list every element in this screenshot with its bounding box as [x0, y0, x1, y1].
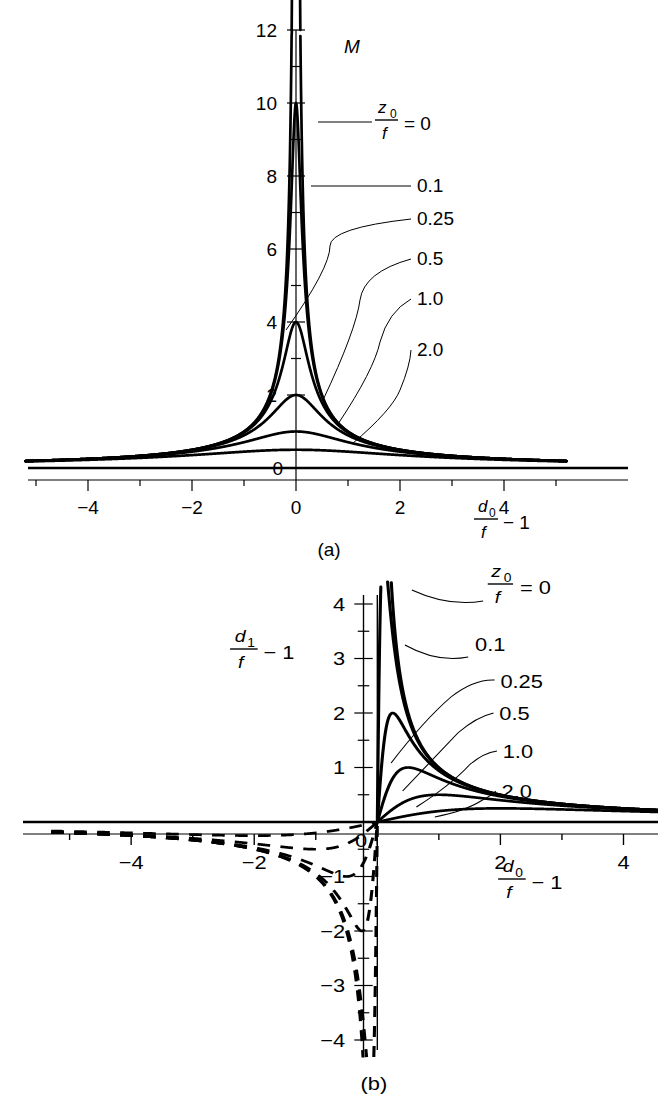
chart-a-svg: −4−2024024681012 M z 0 f = 0 0.1 0.25 0.…: [0, 0, 658, 560]
chart-a-series-label-0.5: 0.5: [417, 248, 443, 269]
chart-b-y-tick-label: 3: [333, 648, 345, 669]
chart-b-x-numerator: d: [503, 856, 515, 875]
chart-a-x-denominator: f: [481, 523, 488, 542]
chart-b-y-tick-label: 2: [333, 702, 345, 723]
chart-a-z0-denominator: f: [382, 124, 389, 143]
chart-b-y-tick-label: −1: [320, 866, 345, 887]
chart-b-leader-0: [412, 590, 483, 603]
chart-a-y-tick-label: 6: [266, 239, 277, 260]
chart-b-y-suffix: − 1: [263, 641, 294, 662]
chart-b-curve-0-negative: [51, 832, 363, 1057]
chart-b-curve-0-positive: [391, 583, 658, 812]
chart-a-x-tick-label: 0: [291, 497, 302, 518]
chart-b-z0-equals: = 0: [520, 576, 551, 597]
chart-a-y-tick-label: 8: [266, 166, 277, 187]
chart-a-leader-1.0: [338, 299, 411, 424]
chart-b-series-label-0.5: 0.5: [499, 702, 529, 723]
chart-b-z0-denominator: f: [495, 587, 502, 606]
chart-b-y-tick-label: 4: [333, 593, 345, 614]
chart-b-x-tick-label: −2: [242, 851, 267, 872]
chart-a-x-tick-label: −4: [77, 497, 99, 518]
chart-b-curve-2.0-positive: [377, 808, 658, 822]
chart-a-series-label-0: z 0 f = 0: [375, 98, 431, 143]
chart-panel-a: −4−2024024681012 M z 0 f = 0 0.1 0.25 0.…: [0, 0, 658, 560]
chart-b-y-tick-label: −4: [320, 1029, 345, 1050]
chart-a-z0-equals: = 0: [404, 113, 431, 134]
chart-a-curve-0-spike-left: [292, 0, 296, 30]
chart-b-leader-0.5: [403, 713, 494, 791]
chart-a-series-label-0.25: 0.25: [417, 208, 454, 229]
chart-b-series-label-0.25: 0.25: [500, 670, 543, 691]
chart-b-y-tick-label: 1: [333, 757, 345, 778]
chart-a-z0-numerator-sub: 0: [390, 107, 397, 121]
chart-b-curves: [51, 582, 658, 1058]
chart-a-y-axis-symbol: M: [344, 36, 360, 57]
chart-a-tick-labels: −4−2024024681012: [77, 20, 510, 518]
chart-a-y-tick-label: 10: [256, 93, 277, 114]
chart-b-z0-numerator: z: [490, 561, 501, 580]
chart-b-x-tick-label: 4: [617, 851, 629, 872]
chart-a-y-tick-label: 12: [256, 20, 277, 41]
chart-a-y-tick-label: 0: [272, 458, 283, 479]
chart-b-y-tick-label: −3: [320, 975, 345, 996]
chart-a-x-tick-label: −2: [181, 497, 203, 518]
chart-a-y-tick-label: 4: [266, 312, 277, 333]
chart-b-leader-0.1: [405, 645, 468, 659]
chart-b-series-label-0: z 0 f = 0: [488, 561, 551, 606]
chart-a-leader-2.0: [352, 350, 411, 444]
chart-b-y-axis-label: d 1 f − 1: [230, 626, 294, 671]
chart-a-z0-numerator: z: [377, 98, 387, 117]
chart-a-curve-0-spike-right: [296, 0, 300, 30]
chart-b-series-label-0.1: 0.1: [475, 633, 505, 654]
chart-b-caption: (b): [361, 1072, 388, 1093]
chart-b-x-suffix: − 1: [531, 871, 562, 892]
chart-b-x-tick-label: −4: [119, 851, 144, 872]
chart-b-y-numerator-sub: 1: [247, 636, 255, 650]
chart-a-series-label-0.1: 0.1: [417, 175, 443, 196]
chart-b-y-tick-label: −2: [320, 920, 345, 941]
chart-panel-b: −4−2024−4−3−2−11234 d 1 f − 1 z 0 f = 0: [0, 545, 658, 1117]
chart-a-x-suffix: − 1: [503, 512, 530, 533]
chart-b-x-tick-label: 0: [355, 829, 367, 850]
chart-a-y-tick-label: 2: [266, 385, 277, 406]
chart-a-leader-0.5: [323, 259, 411, 400]
chart-b-leader-0.25: [391, 680, 495, 763]
chart-b-x-axis-label: d 0 f − 1: [498, 856, 562, 901]
chart-b-x-numerator-sub: 0: [515, 866, 523, 880]
chart-b-svg: −4−2024−4−3−2−11234 d 1 f − 1 z 0 f = 0: [0, 545, 658, 1117]
chart-a-x-numerator-sub: 0: [489, 506, 496, 520]
chart-b-series-label-1.0: 1.0: [503, 740, 533, 761]
chart-b-series-label-2.0: 2.0: [502, 780, 532, 801]
chart-b-x-denominator: f: [506, 882, 513, 901]
chart-b-y-numerator: d: [235, 626, 247, 645]
chart-a-series-label-2.0: 2.0: [417, 339, 443, 360]
chart-b-y-denominator: f: [238, 652, 245, 671]
chart-a-x-numerator: d: [478, 497, 488, 516]
chart-a-x-tick-label: 2: [395, 497, 406, 518]
chart-a-series-label-1.0: 1.0: [417, 288, 443, 309]
figure-container: −4−2024024681012 M z 0 f = 0 0.1 0.25 0.…: [0, 0, 658, 1117]
chart-b-z0-numerator-sub: 0: [504, 571, 512, 585]
